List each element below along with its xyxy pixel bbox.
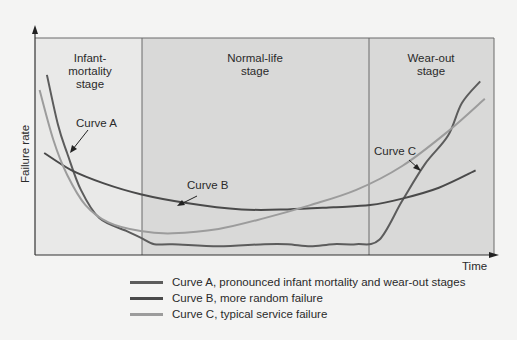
wear-stage-label: Wear-out stage (391, 52, 471, 78)
curve-a-label: Curve A (76, 117, 117, 129)
legend-item-curve-a: Curve A, pronounced infant mortality and… (130, 274, 465, 290)
legend-text-curve-b: Curve B, more random failure (172, 292, 323, 304)
legend-swatch-curve-c (130, 313, 163, 316)
legend-text-curve-a: Curve A, pronounced infant mortality and… (172, 276, 465, 288)
normal-stage-label: Normal-life stage (215, 52, 295, 78)
legend-item-curve-c: Curve C, typical service failure (130, 306, 465, 322)
curve-c-label: Curve C (374, 145, 416, 157)
legend: Curve A, pronounced infant mortality and… (130, 274, 465, 322)
infant-stage-label: Infant- mortality stage (55, 52, 125, 91)
legend-swatch-curve-b (130, 297, 163, 300)
curve-b-label: Curve B (187, 179, 229, 191)
legend-item-curve-b: Curve B, more random failure (130, 290, 465, 306)
bathtub-curve-figure: Infant- mortality stage Normal-life stag… (0, 0, 517, 340)
y-axis-arrow-icon (32, 25, 38, 34)
y-axis-label: Failure rate (19, 125, 31, 183)
legend-text-curve-c: Curve C, typical service failure (172, 308, 327, 320)
legend-swatch-curve-a (130, 281, 163, 284)
x-axis-label: Time (462, 260, 487, 272)
